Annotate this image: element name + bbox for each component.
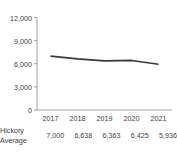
values-table: Hickory Average 7,000 6,638 6,363 6,425 … [0,126,177,145]
y-tick-label-6000: 6,000 [14,60,32,69]
row-header-line-2: Average [0,136,36,146]
y-tick-label-3000: 3,000 [14,83,32,92]
x-tick-label-2020: 2020 [124,114,140,123]
chart-plot: 12,000 9,000 6,000 3,000 0 2017 2018 201… [0,0,177,126]
data-table: Hickory Average 7,000 6,638 6,363 6,425 … [0,126,177,145]
x-tick-label-2021: 2021 [151,114,167,123]
series-line-hickory-average [51,56,159,64]
y-tick-label-12000: 12,000 [10,14,32,23]
row-header-hickory-average: Hickory Average [0,126,36,145]
table-row: Hickory Average 7,000 6,638 6,363 6,425 … [0,126,177,145]
x-tick-label-2018: 2018 [70,114,86,123]
y-tick-label-0: 0 [28,106,32,115]
cell-2017: 7,000 [36,126,64,145]
cell-2020: 6,425 [121,126,149,145]
cell-2019: 6,363 [92,126,120,145]
x-tick-label-2017: 2017 [43,114,59,123]
x-tick-label-2019: 2019 [97,114,113,123]
cell-2021: 5,936 [149,126,177,145]
line-chart-card: 12,000 9,000 6,000 3,000 0 2017 2018 201… [0,0,177,163]
y-tick-label-9000: 9,000 [14,37,32,46]
row-header-line-1: Hickory [0,126,36,136]
cell-2018: 6,638 [64,126,92,145]
